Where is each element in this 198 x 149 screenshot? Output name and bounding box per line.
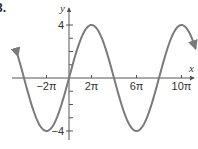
x-axis-label: x bbox=[188, 62, 194, 74]
sine-graph: −2π2π6π10π4−4 x y bbox=[0, 0, 198, 149]
x-tick-label: 2π bbox=[85, 80, 99, 92]
x-tick-label: 10π bbox=[172, 80, 192, 92]
y-axis-label: y bbox=[59, 2, 65, 14]
y-tick-label: 4 bbox=[58, 19, 64, 31]
x-tick-label: −2π bbox=[36, 80, 57, 92]
x-tick-label: 6π bbox=[130, 80, 144, 92]
